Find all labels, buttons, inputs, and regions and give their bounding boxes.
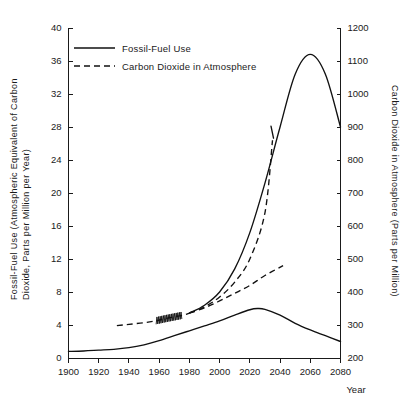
right-axis-title: Carbon Dioxide in Atmosphere (Parts per … bbox=[390, 85, 400, 297]
x-tick-label: 1960 bbox=[149, 366, 170, 377]
x-tick-label: 2040 bbox=[269, 366, 290, 377]
right-tick-label: 600 bbox=[348, 220, 364, 231]
x-tick-label: 1940 bbox=[118, 366, 139, 377]
x-tick-label: 2060 bbox=[300, 366, 321, 377]
left-tick-label: 12 bbox=[51, 253, 62, 264]
left-axis-title-line1: Fossil-Fuel Use (Atmospheric Equivalent … bbox=[9, 78, 19, 300]
left-axis-ticks: 0481216202428323640 bbox=[51, 22, 73, 363]
left-tick-label: 4 bbox=[56, 319, 61, 330]
left-tick-label: 8 bbox=[56, 286, 61, 297]
annotation-whisker-2035 bbox=[271, 126, 274, 138]
left-tick-label: 32 bbox=[51, 88, 62, 99]
right-tick-label: 300 bbox=[348, 319, 364, 330]
right-tick-label: 900 bbox=[348, 121, 364, 132]
right-tick-label: 200 bbox=[348, 352, 364, 363]
series-fossil-fuel-use bbox=[69, 308, 341, 351]
right-tick-label: 1200 bbox=[348, 22, 369, 33]
x-tick-label: 2000 bbox=[209, 366, 230, 377]
left-tick-label: 24 bbox=[51, 154, 62, 165]
right-tick-label: 700 bbox=[348, 187, 364, 198]
axes-group bbox=[69, 28, 341, 359]
legend-label-fossil-fuel-use: Fossil-Fuel Use bbox=[122, 43, 191, 54]
right-tick-label: 400 bbox=[348, 286, 364, 297]
right-tick-label: 1100 bbox=[348, 55, 368, 66]
x-tick-label: 1920 bbox=[88, 366, 109, 377]
x-axis-title: Year bbox=[346, 384, 365, 395]
left-tick-label: 16 bbox=[51, 220, 62, 231]
series-co2-seasonal-sawtooth bbox=[156, 312, 182, 324]
chart-legend: Fossil-Fuel Use Carbon Dioxide in Atmosp… bbox=[74, 43, 256, 72]
right-tick-label: 1000 bbox=[348, 88, 369, 99]
bottom-axis-ticks: 1900192019401960198020002020204020602080 bbox=[58, 358, 351, 377]
left-tick-label: 40 bbox=[51, 22, 62, 33]
left-tick-label: 28 bbox=[51, 121, 62, 132]
left-tick-label: 20 bbox=[51, 187, 62, 198]
right-axis-ticks: 200300400500600700800900100011001200 bbox=[337, 22, 369, 363]
left-tick-label: 36 bbox=[51, 55, 62, 66]
left-axis-title-line2: Dioxide, Parts per Million per Year) bbox=[21, 149, 31, 300]
left-tick-label: 0 bbox=[56, 352, 61, 363]
x-tick-label: 2020 bbox=[239, 366, 260, 377]
series-co2-main bbox=[189, 54, 340, 313]
series-group bbox=[69, 54, 341, 351]
chart-plot-area: 0481216202428323640 20030040050060070080… bbox=[0, 0, 403, 414]
x-tick-label: 1900 bbox=[58, 366, 79, 377]
legend-label-carbon-dioxide: Carbon Dioxide in Atmosphere bbox=[122, 61, 256, 72]
right-tick-label: 500 bbox=[348, 253, 364, 264]
right-tick-label: 800 bbox=[348, 154, 364, 165]
series-co2-high-branch bbox=[189, 140, 272, 313]
axis-titles: Fossil-Fuel Use (Atmospheric Equivalent … bbox=[9, 78, 400, 395]
chart-figure: 0481216202428323640 20030040050060070080… bbox=[0, 0, 403, 414]
x-tick-label: 1980 bbox=[179, 366, 200, 377]
x-tick-label: 2080 bbox=[330, 366, 351, 377]
